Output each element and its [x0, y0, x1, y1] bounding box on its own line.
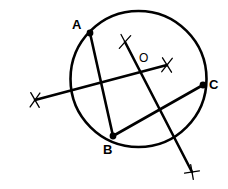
- vertex-dot-a: [87, 30, 94, 37]
- point-label-c: C: [209, 78, 218, 91]
- point-label-a: A: [72, 18, 81, 31]
- center-label-o: O: [139, 52, 148, 64]
- arc-cross-marks: [30, 34, 199, 179]
- perpendicular-bisector-of-ab: [125, 42, 192, 172]
- arc-cross-bottom: [185, 165, 200, 180]
- vertex-dot-b: [110, 133, 117, 140]
- vertex-dot-c: [200, 82, 207, 89]
- chord-bc: [113, 85, 203, 136]
- bisector-lines: [35, 42, 192, 172]
- geometry-diagram: A B C O: [0, 0, 228, 189]
- point-label-b: B: [103, 143, 112, 156]
- geometry-figure: [0, 0, 228, 189]
- arc-cross-top-stroke-2: [119, 36, 130, 49]
